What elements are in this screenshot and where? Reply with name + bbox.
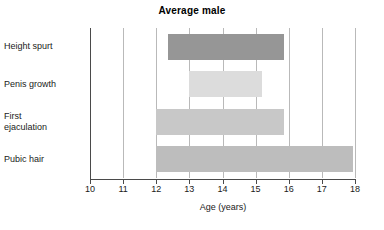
x-tick-label: 13 — [177, 184, 201, 194]
x-tick-label: 15 — [244, 184, 268, 194]
bar-height-spurt — [168, 34, 284, 60]
category-label-first-ejaculation: Firstejaculation — [4, 111, 84, 133]
gridline-11 — [123, 28, 124, 178]
x-tick-label: 18 — [343, 184, 367, 194]
x-axis-title: Age (years) — [90, 202, 356, 212]
plot-area — [90, 28, 355, 178]
x-tick-label: 11 — [111, 184, 135, 194]
category-label-line: ejaculation — [4, 122, 84, 133]
category-label-penis-growth: Penis growth — [4, 79, 84, 90]
bar-first-ejaculation — [156, 109, 284, 135]
chart-title: Average male — [0, 5, 384, 16]
gridline-18 — [355, 28, 356, 178]
category-label-line: Pubic hair — [4, 154, 84, 165]
category-label-line: Height spurt — [4, 41, 84, 52]
category-label-line: First — [4, 111, 84, 122]
bar-penis-growth — [189, 71, 262, 97]
category-label-line: Penis growth — [4, 79, 84, 90]
x-tick-label: 14 — [211, 184, 235, 194]
x-tick-label: 17 — [310, 184, 334, 194]
category-label-pubic-hair: Pubic hair — [4, 154, 84, 165]
x-tick-label: 16 — [277, 184, 301, 194]
x-tick-label: 10 — [78, 184, 102, 194]
x-tick-label: 12 — [144, 184, 168, 194]
category-label-height-spurt: Height spurt — [4, 41, 84, 52]
y-axis-line — [90, 28, 91, 180]
chart-container: Average male 101112131415161718 Height s… — [0, 0, 384, 230]
bar-pubic-hair — [156, 146, 353, 172]
